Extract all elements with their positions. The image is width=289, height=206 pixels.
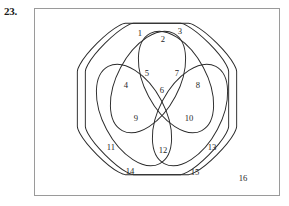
figure-frame: 12345678910111213141516: [34, 8, 280, 196]
region-label-3: 3: [178, 26, 182, 36]
region-label-13: 13: [208, 142, 217, 152]
problem-number-label: 23.: [4, 6, 17, 17]
region-label-4: 4: [124, 80, 129, 90]
region-label-6: 6: [160, 85, 165, 95]
set-curve-outer-left: [41, 9, 264, 195]
region-label-15: 15: [191, 167, 200, 177]
region-label-12: 12: [159, 145, 168, 155]
region-label-14: 14: [126, 166, 135, 176]
region-label-10: 10: [185, 113, 194, 123]
region-label-16: 16: [239, 173, 248, 183]
venn-diagram: 12345678910111213141516: [35, 9, 279, 195]
worksheet-page: 23. 1234567: [0, 0, 289, 206]
region-label-5: 5: [145, 68, 149, 78]
region-label-11: 11: [107, 142, 115, 152]
region-label-1: 1: [138, 28, 142, 38]
region-label-2: 2: [161, 34, 165, 44]
region-label-8: 8: [196, 80, 200, 90]
set-outer-rounded-square-left: [41, 9, 264, 195]
region-label-7: 7: [175, 68, 180, 78]
region-label-9: 9: [134, 113, 138, 123]
